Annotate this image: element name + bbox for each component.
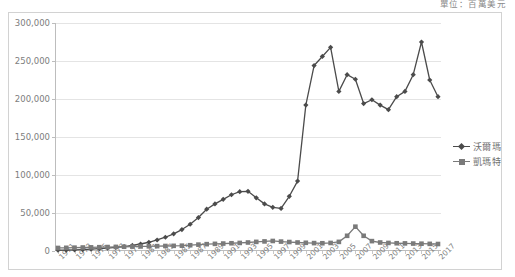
unit-caption: 單位：百萬美元 (440, 0, 507, 10)
data-point-kmart (312, 241, 317, 246)
data-point-kmart (328, 241, 333, 246)
data-point-kmart (229, 241, 234, 246)
data-point-kmart (97, 245, 102, 250)
data-point-kmart (345, 234, 350, 239)
data-point-kmart (221, 241, 226, 246)
data-point-walmart (270, 205, 275, 210)
data-point-kmart (171, 244, 176, 249)
data-point-kmart (188, 243, 193, 248)
series-layer (55, 23, 441, 251)
data-point-kmart (320, 241, 325, 246)
data-point-kmart (270, 239, 275, 244)
data-point-walmart (237, 189, 242, 194)
data-point-kmart (378, 240, 383, 245)
data-point-kmart (386, 241, 391, 246)
y-axis-tick-label: 250,000 (15, 56, 50, 66)
y-axis-tick-label: 100,000 (15, 170, 50, 180)
data-point-walmart (171, 231, 176, 236)
data-point-walmart (353, 77, 358, 82)
plot-area: 050,000100,000150,000200,000250,000300,0… (55, 23, 441, 251)
data-point-kmart (114, 245, 119, 250)
data-point-kmart (295, 240, 300, 245)
data-point-kmart (370, 239, 375, 244)
data-point-walmart (336, 89, 341, 94)
data-point-walmart (303, 102, 308, 107)
data-point-kmart (304, 240, 309, 245)
data-point-kmart (213, 242, 218, 247)
data-point-kmart (262, 239, 267, 244)
data-point-kmart (246, 240, 251, 245)
data-point-kmart (155, 244, 160, 249)
y-tick-mark (52, 251, 55, 252)
data-point-kmart (56, 246, 61, 251)
data-point-kmart (353, 224, 358, 229)
data-point-kmart (337, 240, 342, 245)
series-kmart (56, 224, 441, 250)
data-point-walmart (295, 178, 300, 183)
data-point-walmart (419, 39, 424, 44)
data-point-kmart (436, 242, 441, 247)
data-point-kmart (279, 239, 284, 244)
series-walmart (55, 39, 440, 252)
data-point-kmart (130, 244, 135, 249)
chart-frame: 050,000100,000150,000200,000250,000300,0… (8, 12, 502, 270)
data-point-kmart (163, 244, 168, 249)
data-point-walmart (361, 101, 366, 106)
data-point-kmart (427, 242, 432, 247)
y-axis-tick-label: 50,000 (20, 208, 50, 218)
data-point-walmart (229, 192, 234, 197)
data-point-kmart (254, 240, 259, 245)
data-point-walmart (411, 72, 416, 77)
data-point-walmart (435, 94, 440, 99)
chart-container: 單位：百萬美元 050,000100,000150,000200,000250,… (0, 0, 515, 277)
data-point-kmart (72, 245, 77, 250)
y-axis-tick-label: 200,000 (15, 94, 50, 104)
y-axis-tick-label: 150,000 (15, 132, 50, 142)
data-point-kmart (138, 244, 143, 249)
data-point-kmart (180, 243, 185, 248)
data-point-kmart (196, 242, 201, 247)
legend-label: 凱瑪特 (473, 155, 501, 168)
legend-label: 沃爾瑪 (473, 140, 501, 153)
data-point-kmart (419, 241, 424, 246)
data-point-kmart (122, 244, 127, 249)
legend-marker-diamond-icon (453, 142, 470, 151)
series-line-walmart (58, 42, 438, 250)
y-axis-tick-label: 300,000 (15, 18, 50, 28)
data-point-walmart (345, 72, 350, 77)
data-point-kmart (64, 246, 69, 251)
data-point-walmart (221, 197, 226, 202)
legend: 沃爾瑪凱瑪特 (453, 139, 509, 169)
y-axis-tick-label: 0 (45, 246, 50, 256)
data-point-kmart (80, 245, 85, 250)
data-point-kmart (411, 241, 416, 246)
data-point-walmart (427, 77, 432, 82)
data-point-kmart (403, 241, 408, 246)
data-point-kmart (147, 244, 152, 249)
data-point-kmart (89, 245, 94, 250)
data-point-kmart (287, 240, 292, 245)
data-point-walmart (155, 237, 160, 242)
legend-item-kmart[interactable]: 凱瑪特 (453, 154, 509, 169)
legend-item-walmart[interactable]: 沃爾瑪 (453, 139, 509, 154)
data-point-kmart (237, 241, 242, 246)
data-point-kmart (361, 234, 366, 239)
data-point-walmart (163, 235, 168, 240)
data-point-kmart (204, 242, 209, 247)
data-point-kmart (394, 241, 399, 246)
legend-marker-square-icon (453, 157, 470, 166)
data-point-kmart (105, 245, 110, 250)
